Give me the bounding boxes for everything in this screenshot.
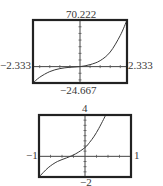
chart-bottom: 4 −1 1 −2 [0, 100, 163, 186]
top-chart-xmax-label: 2.333 [128, 60, 153, 71]
top-chart-ymin-label: −24.667 [60, 85, 96, 96]
bottom-chart-ymin-label: −2 [80, 177, 92, 186]
top-chart-xmin-label: −2.333 [0, 60, 31, 71]
axes [39, 115, 131, 177]
top-chart-plot [33, 20, 127, 83]
bottom-chart-plot [39, 115, 131, 177]
bottom-chart-ymax-label: 4 [82, 103, 88, 114]
top-chart-ymax-label: 70.222 [66, 9, 96, 20]
axes [33, 20, 127, 83]
bottom-chart-xmin-label: −1 [26, 150, 38, 161]
bottom-chart-xmax-label: 1 [134, 150, 140, 161]
chart-top: 70.222 −2.333 2.333 −24.667 [0, 0, 163, 100]
curve [39, 115, 106, 177]
